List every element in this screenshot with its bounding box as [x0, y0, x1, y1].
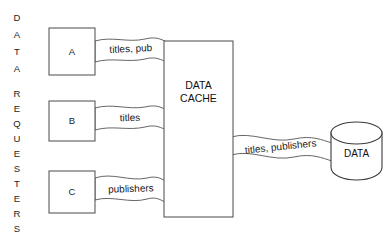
flow-label-b: titles [120, 112, 141, 123]
data-cache-box[interactable] [164, 41, 233, 217]
database-label: DATA [344, 148, 370, 159]
requester-label-b: B [69, 115, 75, 126]
requester-label-c: C [69, 186, 76, 197]
data-cache-label-line2: CACHE [180, 92, 217, 104]
requester-label-a: A [69, 46, 76, 57]
flow-label-c: publishers [108, 182, 154, 195]
diagram-canvas: D A T A R E Q U E S T E R S A B C DATA C… [0, 0, 386, 241]
flow-label-a: titles, pub [109, 42, 153, 55]
data-cache-label-line1: DATA [185, 79, 211, 91]
database-cylinder-top [331, 122, 382, 144]
